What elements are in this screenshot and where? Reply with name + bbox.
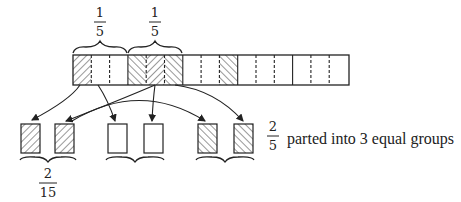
part-group-3 [196,124,254,162]
top-brace-2 [128,41,182,53]
svg-text:2: 2 [44,166,52,181]
svg-text:parted into 3 equal groups: parted into 3 equal groups [287,130,454,148]
side-label: 2 5 parted into 3 equal groups [267,119,454,153]
svg-text:1: 1 [151,5,159,20]
bottom-label: 2 15 [39,166,57,200]
svg-text:1: 1 [96,5,104,20]
arrows [32,85,243,121]
svg-text:2: 2 [269,119,277,134]
svg-text:5: 5 [151,24,159,39]
top-label-2: 1 5 [149,5,161,39]
top-brace-1 [73,41,127,53]
top-label-1: 1 5 [94,5,106,39]
fraction-bar [73,55,349,85]
fraction-diagram: 1 5 1 5 [0,0,461,202]
svg-text:5: 5 [96,24,104,39]
svg-text:15: 15 [40,185,57,200]
part-group-1 [20,124,76,162]
part-group-2 [106,124,164,162]
svg-text:5: 5 [269,138,277,153]
